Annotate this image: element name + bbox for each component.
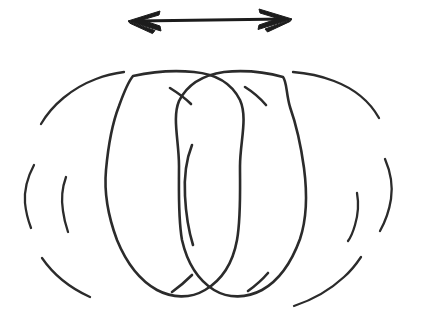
inner-short-arc	[185, 145, 193, 245]
outer-dash-bottom-left	[42, 258, 90, 297]
left-solid-circle	[105, 71, 243, 296]
outer-dash-top-right	[293, 72, 379, 118]
outer-dashed-circle	[25, 72, 392, 306]
arrow-shaft	[137, 19, 285, 21]
double-headed-arrow	[128, 9, 292, 34]
left-circle-outline	[105, 71, 243, 296]
right-circle-top-tail	[245, 87, 266, 105]
outer-dash-right	[380, 159, 392, 231]
oscillating-sphere-diagram	[0, 0, 423, 320]
outer-dash-bottom-right	[294, 257, 361, 306]
figure-canvas: Oscillating sphere diagram Hand-drawn sk…	[0, 0, 423, 320]
left-circle-bottom-tail	[172, 275, 192, 292]
outer-dash-top-left	[41, 72, 124, 124]
outer-dash-inner-right	[348, 193, 358, 241]
outer-dash-left	[25, 165, 34, 228]
outer-dash-inner-left	[62, 177, 68, 232]
